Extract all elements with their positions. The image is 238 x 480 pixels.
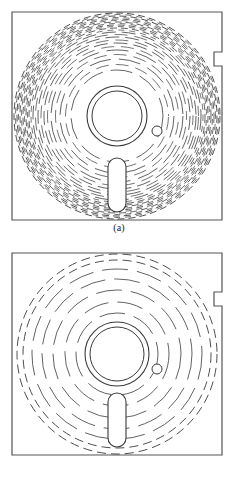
head-access-slot [108, 158, 126, 212]
index-hole [152, 126, 162, 136]
panel-a-caption: (a) [0, 222, 238, 233]
panel-b-drawing [0, 240, 238, 480]
hub-inner-ring [90, 327, 144, 381]
hub-inner-ring [92, 91, 142, 141]
panel-b: (b) [0, 240, 238, 480]
panel-a-drawing [0, 0, 238, 240]
panel-a: (a) [0, 0, 238, 240]
floppy-disk-figure: (a) (b) [0, 0, 238, 480]
index-hole [152, 364, 162, 374]
head-access-slot [108, 393, 126, 447]
